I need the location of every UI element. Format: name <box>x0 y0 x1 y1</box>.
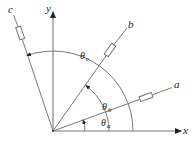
vector-b-label: b <box>128 18 134 30</box>
theta-c-label: θ c <box>80 50 90 63</box>
svg-text:θ: θ <box>80 50 85 61</box>
vector-c-label: c <box>8 3 13 15</box>
y-axis-label: y <box>45 2 51 14</box>
svg-text:θ: θ <box>101 117 106 128</box>
resistor-b-icon <box>104 43 116 56</box>
vector-b <box>53 28 127 131</box>
svg-text:a: a <box>107 122 111 130</box>
svg-text:θ: θ <box>102 101 107 112</box>
theta-a-label: θ a <box>101 117 111 130</box>
angle-diagram: x y a b c θ a θ b θ c <box>0 0 194 142</box>
x-axis-label: x <box>182 124 188 136</box>
resistor-c-icon <box>16 26 25 40</box>
theta-b-label: θ b <box>102 101 112 114</box>
resistor-a-icon <box>139 92 153 101</box>
arc-theta-c <box>27 51 133 131</box>
svg-text:c: c <box>86 55 90 63</box>
svg-text:b: b <box>108 106 112 114</box>
vector-a <box>53 88 172 131</box>
vector-a-label: a <box>174 78 180 90</box>
arc-theta-a <box>83 120 85 131</box>
origin-point <box>52 130 54 132</box>
vector-c <box>14 15 54 131</box>
